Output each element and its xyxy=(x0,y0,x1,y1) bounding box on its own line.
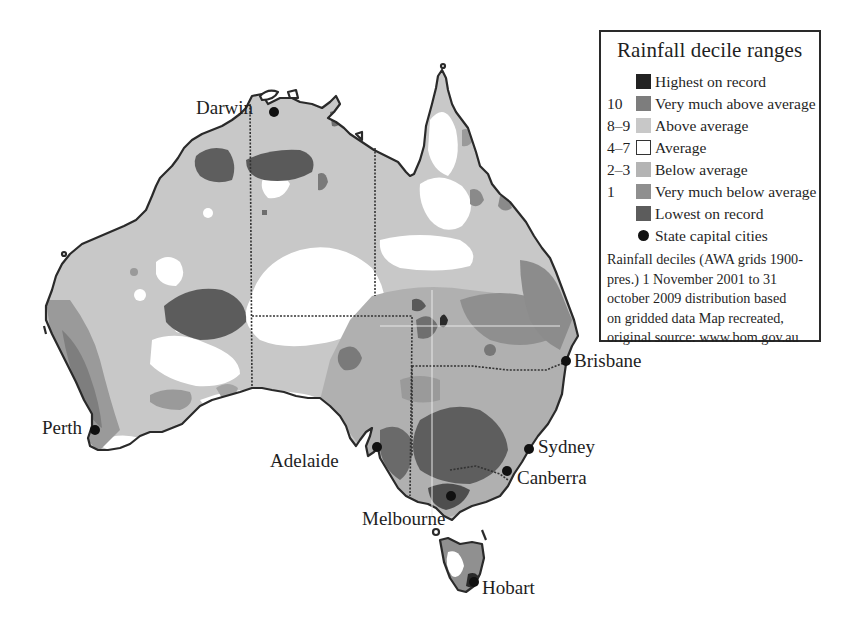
legend-swatch-icon xyxy=(636,140,651,155)
legend-item-very-much-below: 1 Very much below average xyxy=(601,182,819,202)
city-marker-darwin xyxy=(269,107,279,117)
city-marker-melbourne xyxy=(446,491,456,501)
legend-swatch-icon xyxy=(636,96,651,111)
legend-item-lowest: Lowest on record xyxy=(601,204,819,224)
city-marker-canberra xyxy=(502,466,512,476)
legend-item-very-much-above: 10 Very much above average xyxy=(601,94,819,114)
city-dot-icon xyxy=(638,230,649,241)
city-label-brisbane: Brisbane xyxy=(574,351,642,370)
city-marker-sydney xyxy=(524,444,534,454)
city-label-sydney: Sydney xyxy=(538,437,595,456)
city-label-hobart: Hobart xyxy=(482,578,535,597)
city-marker-perth xyxy=(90,425,100,435)
city-label-darwin: Darwin xyxy=(196,98,253,117)
legend-swatch-icon xyxy=(636,118,651,133)
legend-swatch-icon xyxy=(636,74,651,89)
city-marker-brisbane xyxy=(561,356,571,366)
legend-swatch-icon xyxy=(636,184,651,199)
city-label-perth: Perth xyxy=(42,418,82,437)
legend-item-above: 8–9 Above average xyxy=(601,116,819,136)
legend: Rainfall decile ranges Highest on record… xyxy=(599,30,821,342)
legend-source-note: Rainfall deciles (AWA grids 1900- pres.)… xyxy=(607,250,819,348)
legend-item-highest: Highest on record xyxy=(601,72,819,92)
legend-swatch-icon xyxy=(636,206,651,221)
city-label-adelaide: Adelaide xyxy=(270,451,339,470)
legend-item-below: 2–3 Below average xyxy=(601,160,819,180)
city-label-canberra: Canberra xyxy=(517,468,587,487)
city-label-melbourne: Melbourne xyxy=(362,509,445,528)
legend-item-average: 4–7 Average xyxy=(601,138,819,158)
city-marker-hobart xyxy=(469,577,479,587)
city-marker-adelaide xyxy=(372,442,382,452)
legend-item-capital-cities: State capital cities xyxy=(601,226,819,246)
legend-title: Rainfall decile ranges xyxy=(617,38,802,63)
legend-swatch-icon xyxy=(636,162,651,177)
